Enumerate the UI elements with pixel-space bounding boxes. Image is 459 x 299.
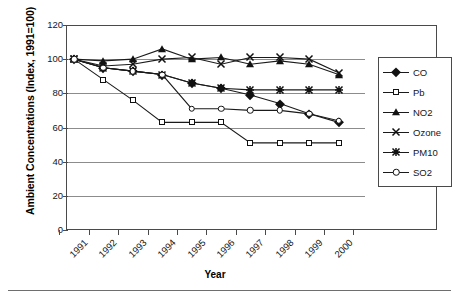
data-point-ozone-1994 xyxy=(158,55,167,64)
data-point-pb-2000 xyxy=(336,140,342,146)
y-axis-tick xyxy=(63,230,68,231)
x-axis-tick-label: 1993 xyxy=(120,237,149,266)
legend-label: NO2 xyxy=(409,107,433,118)
data-point-pb-1992 xyxy=(100,77,106,83)
x-axis-tick xyxy=(295,230,296,235)
x-axis-tick xyxy=(89,230,90,235)
x-axis-tick xyxy=(353,230,354,235)
y-axis-tick-label: 60 xyxy=(23,122,63,133)
plot-area: 020406080100120 199119921993199419951996… xyxy=(66,25,364,230)
series-lines xyxy=(67,25,365,230)
data-point-ozone-1999 xyxy=(305,55,314,64)
data-point-pb-1995 xyxy=(189,119,195,125)
legend-label: PM10 xyxy=(409,147,438,158)
x-axis-tick xyxy=(118,230,119,235)
data-point-so2-1994 xyxy=(159,71,166,78)
legend: COPbNO2OzonePM10SO2 xyxy=(378,57,452,187)
chart-figure: Ambient Concentrations (Index, 1991=100)… xyxy=(0,0,459,299)
data-point-pm10-1996 xyxy=(217,84,226,93)
x-axis-tick-label: 2000 xyxy=(325,237,354,266)
data-point-so2-1993 xyxy=(130,68,137,75)
x-axis-tick-label: 1991 xyxy=(61,237,90,266)
x-axis-tick-label: 1997 xyxy=(237,237,266,266)
footer-divider xyxy=(8,290,451,291)
legend-marker-so2-icon xyxy=(383,165,409,179)
data-point-so2-2000 xyxy=(335,117,342,124)
x-axis-tick-label: 1992 xyxy=(90,237,119,266)
legend-item-pb[interactable]: Pb xyxy=(383,82,451,102)
x-axis-tick xyxy=(148,230,149,235)
data-point-ozone-1997 xyxy=(246,53,255,62)
y-axis-tick-label: 20 xyxy=(23,190,63,201)
data-point-pm10-1999 xyxy=(305,85,314,94)
legend-label: Ozone xyxy=(409,127,441,138)
x-axis-tick xyxy=(265,230,266,235)
legend-marker-co-icon xyxy=(383,65,409,79)
legend-label: Pb xyxy=(409,87,425,98)
data-point-pm10-1995 xyxy=(187,79,196,88)
data-point-pm10-2000 xyxy=(334,85,343,94)
legend-item-so2[interactable]: SO2 xyxy=(383,162,451,182)
legend-marker-no2-icon xyxy=(383,105,409,119)
legend-label: CO xyxy=(409,67,427,78)
data-point-pm10-1998 xyxy=(275,85,284,94)
data-point-so2-1997 xyxy=(247,107,254,114)
x-axis-tick-label: 1996 xyxy=(208,237,237,266)
x-axis-tick xyxy=(324,230,325,235)
data-point-pb-1996 xyxy=(218,119,224,125)
x-axis-tick-label: 1995 xyxy=(178,237,207,266)
data-point-so2-1995 xyxy=(188,105,195,112)
legend-marker-pm10-icon xyxy=(383,145,409,159)
data-point-pb-1994 xyxy=(159,119,165,125)
data-point-so2-1991 xyxy=(71,56,78,63)
x-axis-title: Year xyxy=(66,269,364,280)
x-axis-tick xyxy=(177,230,178,235)
series-line-no2 xyxy=(74,49,339,75)
x-axis-tick xyxy=(206,230,207,235)
y-axis-tick-label: 0 xyxy=(23,224,63,235)
data-point-pb-1998 xyxy=(277,140,283,146)
data-point-pb-1993 xyxy=(130,97,136,103)
x-axis-tick-label: 1998 xyxy=(267,237,296,266)
data-point-so2-1992 xyxy=(100,64,107,71)
series-line-pm10 xyxy=(74,59,339,90)
data-point-ozone-1995 xyxy=(187,53,196,62)
series-line-pb xyxy=(74,59,339,143)
data-point-pb-1999 xyxy=(306,140,312,146)
legend-marker-pb-icon xyxy=(383,85,409,99)
y-axis-tick-label: 80 xyxy=(23,87,63,98)
x-axis-tick-label: 1994 xyxy=(149,237,178,266)
x-axis-tick xyxy=(59,230,60,235)
data-point-pm10-1997 xyxy=(246,85,255,94)
data-point-ozone-2000 xyxy=(334,68,343,77)
y-axis-tick-label: 40 xyxy=(23,156,63,167)
legend-item-ozone[interactable]: Ozone xyxy=(383,122,451,142)
legend-label: SO2 xyxy=(409,167,432,178)
x-axis-tick xyxy=(236,230,237,235)
legend-item-no2[interactable]: NO2 xyxy=(383,102,451,122)
data-point-so2-1999 xyxy=(306,111,313,118)
data-point-no2-1994 xyxy=(158,45,166,52)
x-axis-tick-label: 1999 xyxy=(296,237,325,266)
data-point-ozone-1996 xyxy=(217,60,226,69)
legend-item-co[interactable]: CO xyxy=(383,62,451,82)
data-point-ozone-1998 xyxy=(275,53,284,62)
legend-item-pm10[interactable]: PM10 xyxy=(383,142,451,162)
data-point-so2-1996 xyxy=(218,105,225,112)
y-axis-tick-label: 100 xyxy=(23,53,63,64)
data-point-so2-1998 xyxy=(277,107,284,114)
legend-marker-ozone-icon xyxy=(383,125,409,139)
y-axis-tick-label: 120 xyxy=(23,19,63,30)
data-point-pb-1997 xyxy=(247,140,253,146)
